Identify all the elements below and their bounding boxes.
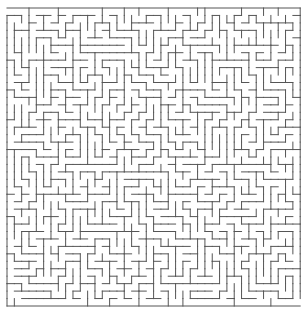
maze-walls	[7, 8, 300, 306]
maze-wall-path	[7, 8, 300, 306]
maze-board	[0, 0, 308, 315]
